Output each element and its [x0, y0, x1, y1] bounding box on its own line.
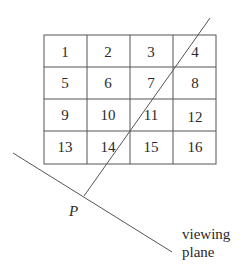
diagram-canvas: 1 2 3 4 5 6 7 8 9 10 11 12 13 14 15 16 P… — [0, 0, 245, 274]
cell-16: 16 — [188, 139, 204, 155]
cell-2: 2 — [104, 44, 112, 60]
cell-13: 13 — [58, 139, 73, 155]
cell-15: 15 — [144, 139, 159, 155]
cell-6: 6 — [104, 75, 112, 91]
viewing-plane-label-line1: viewing — [182, 226, 231, 242]
cell-1: 1 — [61, 44, 69, 60]
cell-12: 12 — [188, 109, 203, 125]
cell-5: 5 — [61, 75, 69, 91]
cell-4: 4 — [191, 44, 199, 60]
viewing-plane-label-line2: plane — [182, 244, 215, 260]
cell-11: 11 — [144, 107, 158, 123]
cell-8: 8 — [191, 75, 199, 91]
cell-3: 3 — [147, 44, 155, 60]
cell-14: 14 — [101, 139, 117, 155]
viewing-plane-line — [13, 153, 172, 252]
cell-7: 7 — [147, 75, 155, 91]
cell-10: 10 — [101, 107, 116, 123]
cell-9: 9 — [61, 107, 69, 123]
point-p-label: P — [68, 203, 78, 219]
